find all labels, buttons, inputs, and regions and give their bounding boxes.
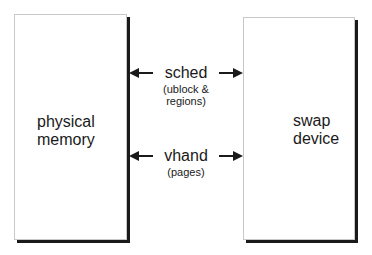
label-line: memory bbox=[37, 131, 95, 149]
sublabel-line: (pages) bbox=[129, 166, 243, 178]
arrow-right-icon bbox=[233, 68, 243, 78]
swap-device-box: swap device bbox=[243, 17, 355, 240]
swap-device-label: swap device bbox=[293, 112, 339, 148]
sched-arrow: sched (ublock & regions) bbox=[129, 64, 243, 107]
vhand-arrow: vhand (pages) bbox=[129, 147, 243, 178]
physical-memory-box: physical memory bbox=[14, 14, 127, 240]
sched-sublabel: (ublock & regions) bbox=[129, 83, 243, 107]
sublabel-line: (ublock & bbox=[129, 83, 243, 95]
label-line: physical bbox=[37, 113, 95, 131]
arrow-right-icon bbox=[233, 151, 243, 161]
sublabel-line: regions) bbox=[129, 95, 243, 107]
vhand-sublabel: (pages) bbox=[129, 166, 243, 178]
label-line: device bbox=[293, 130, 339, 148]
label-line: swap bbox=[293, 112, 339, 130]
physical-memory-label: physical memory bbox=[37, 113, 95, 149]
